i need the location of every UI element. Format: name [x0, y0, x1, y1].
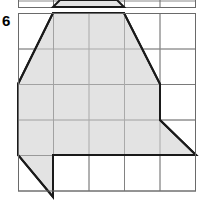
grid-figure-svg — [0, 0, 201, 206]
shaded-polygon — [18, 13, 196, 197]
worksheet-figure-panel: 6 — [0, 0, 201, 206]
previous-problem-partial-group — [18, 0, 196, 8]
previous-problem-partial-shape — [53, 0, 124, 7]
